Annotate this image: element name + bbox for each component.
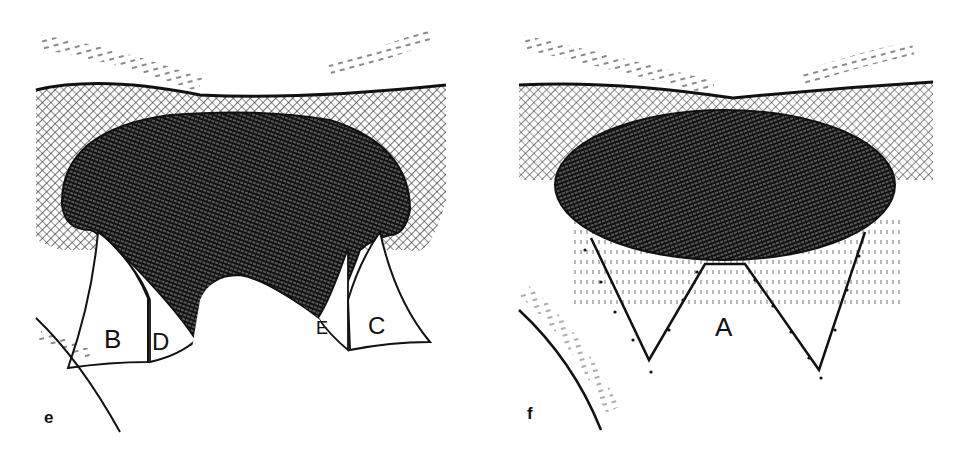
- panel-e: B D E C e: [0, 0, 483, 458]
- panel-letter-e: e: [44, 408, 53, 428]
- flap-label-a: A: [715, 312, 733, 342]
- panel-f-illustration: A: [483, 0, 966, 458]
- panel-letter-f: f: [527, 404, 533, 424]
- panel-e-illustration: B D E C: [0, 0, 483, 458]
- panel-f: A f: [483, 0, 966, 458]
- upper-shading-strokes: [40, 36, 430, 85]
- flap-label-e: E: [316, 318, 328, 338]
- flap-label-c: C: [368, 312, 385, 339]
- defect-dark: [555, 110, 895, 260]
- flap-label-d: D: [152, 328, 169, 355]
- flap-label-b: B: [104, 324, 121, 354]
